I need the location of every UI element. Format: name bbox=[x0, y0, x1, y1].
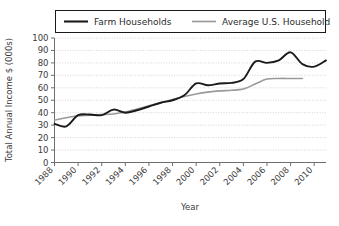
y-tick-label: 70 bbox=[38, 70, 49, 80]
y-tick-label: 90 bbox=[38, 45, 49, 55]
y-tick-label: 40 bbox=[38, 108, 49, 118]
line-chart: 0102030405060708090100 19881990199219941… bbox=[0, 0, 339, 226]
y-tick-label: 30 bbox=[38, 120, 49, 130]
y-tick-label: 100 bbox=[32, 33, 48, 43]
legend-label-farm-households: Farm Households bbox=[94, 17, 172, 27]
y-tick-label: 20 bbox=[38, 133, 49, 143]
chart-container: 0102030405060708090100 19881990199219941… bbox=[0, 0, 339, 226]
y-tick-label: 10 bbox=[38, 145, 49, 155]
legend: Farm Households Average U.S. Household bbox=[56, 11, 331, 33]
y-axis-title: Total Annual Income $ (000s) bbox=[4, 38, 14, 163]
legend-label-average-us-household: Average U.S. Household bbox=[222, 17, 330, 27]
x-axis-title: Year bbox=[180, 202, 200, 212]
y-tick-label: 50 bbox=[38, 95, 49, 105]
y-tick-label: 60 bbox=[38, 83, 49, 93]
y-tick-label: 80 bbox=[38, 58, 49, 68]
